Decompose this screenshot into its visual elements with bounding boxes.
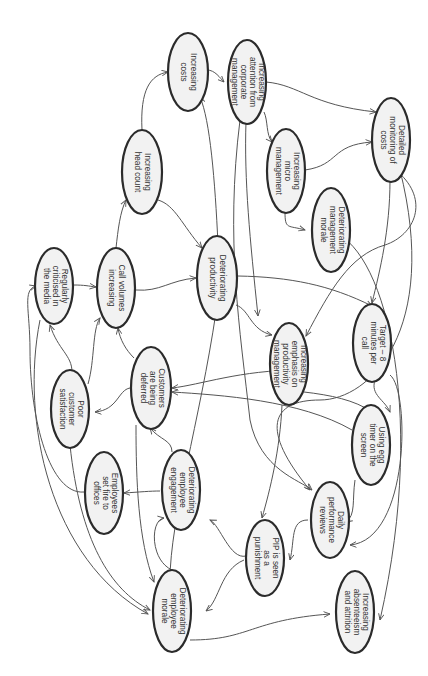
node-call-volumes-increasing: Call volumes increasing [97,248,135,328]
svg-text:minutes per: minutes per [369,322,378,365]
svg-text:employee: employee [178,472,187,508]
svg-text:Using egg: Using egg [377,427,386,464]
node-employees-set-fire: Employees set fire to offices [85,452,123,534]
svg-text:costs: costs [179,62,188,81]
edge-corpattention-monitoring [266,82,376,112]
edge-engagement-fire [124,491,160,493]
svg-text:costs: costs [379,130,388,149]
edge-headcount-productivity [158,200,202,248]
node-deteriorating-productivity: Deteriorating productivity [197,236,237,320]
node-egg-timer: Using egg timer on the screen [352,405,390,485]
node-absenteeism-attrition: Increasing absenteeism and attrition [336,571,374,653]
svg-text:offices: offices [92,481,101,505]
node-increasing-head-count: Increasing head count [122,130,162,214]
edge-deferred-morale [136,425,154,582]
svg-text:head count: head count [133,152,142,193]
svg-text:management: management [230,58,239,107]
node-poor-customer-satisfaction: Poor customer satisfaction [51,370,89,448]
svg-text:engagement: engagement [169,467,178,513]
svg-text:customer: customer [67,392,76,426]
edge-headcount-costs [142,72,168,130]
svg-text:screen: screen [359,433,368,458]
edge-morale-absenteeism [190,614,330,640]
svg-text:Poor: Poor [76,400,85,418]
edge-deferred-callvolumes [118,328,134,358]
edge-corpattention-micromgmt [264,112,272,142]
causal-loop-diagram: Increasing costs Increasing head count I… [0,0,428,676]
svg-text:corporate: corporate [239,65,248,100]
svg-text:Customers: Customers [157,368,166,408]
edge-morale-engagement [154,518,172,570]
edge-productivity-morale [170,312,216,580]
node-target-8-minutes: Target – 8 minutes per call [353,304,391,382]
edge-poorsat-media [50,325,72,372]
svg-text:Call volumes: Call volumes [117,265,126,312]
node-detailed-monitoring-costs: Detailed monitoring of costs [372,98,410,182]
svg-text:management: management [274,147,283,196]
svg-text:Deteriorating: Deteriorating [337,207,346,254]
svg-text:employee: employee [169,593,178,629]
svg-text:Regularly: Regularly [60,269,69,304]
edge-pip-morale [206,560,244,611]
svg-text:Employees: Employees [110,473,119,514]
svg-text:punishment: punishment [253,537,262,580]
svg-text:Detailed: Detailed [397,125,406,155]
svg-text:micro: micro [283,161,292,181]
svg-text:productivity: productivity [208,257,217,299]
edge-media-callvolumes [73,285,96,287]
svg-text:reviews: reviews [318,506,327,534]
svg-text:Target – 8: Target – 8 [378,325,387,362]
node-attention-corporate-management: Increasing attention from corporate mana… [228,40,266,124]
edge-deferred-poorsat [95,388,130,412]
svg-text:are being: are being [148,371,157,406]
svg-text:Daily: Daily [336,511,345,530]
svg-text:attention from: attention from [248,57,257,107]
svg-text:timer on the: timer on the [368,423,377,467]
edge-productivity-costs [200,97,218,244]
edge-micromgmt-mgmtmorale [285,212,305,230]
svg-text:Increasing: Increasing [189,53,198,91]
svg-text:Increasing: Increasing [257,63,266,101]
svg-text:morale: morale [319,217,328,242]
node-increasing-micro-management: Increasing micro management [267,129,305,213]
edge-callvolumes-productivity [136,278,196,290]
edge-pip-engagement [210,520,246,556]
svg-text:Deteriorating: Deteriorating [218,255,227,302]
edge-productivity-emphasis [236,305,272,335]
node-daily-performance-reviews: Daily performance reviews [311,482,349,558]
svg-text:Increasing: Increasing [292,152,301,190]
svg-text:set fire to: set fire to [101,476,110,510]
node-increasing-costs: Increasing costs [168,33,208,111]
node-employee-morale: Deteriorating employee morale [153,570,191,652]
edge-costs-corpattention [207,70,224,82]
svg-text:Deteriorating: Deteriorating [178,588,187,635]
edge-productivity-target [238,276,372,306]
node-pip-punishment: PIP is seen as a punishment [246,520,284,596]
svg-text:emphasis on: emphasis on [290,341,299,388]
nodes: Increasing costs Increasing head count I… [35,33,410,653]
svg-text:as a: as a [262,550,271,566]
svg-text:Increasing: Increasing [143,153,152,191]
svg-text:Increasing: Increasing [361,593,370,631]
svg-text:morale: morale [160,598,169,623]
node-management-morale: Deteriorating management morale [312,188,350,272]
svg-text:call: call [360,337,369,349]
node-criticised-in-media: Regularly criticised in the media [35,248,73,324]
svg-text:absenteeism: absenteeism [352,589,361,636]
edge-micromgmt-monitoring [305,142,372,170]
svg-text:management: management [272,340,281,389]
svg-text:the media: the media [42,268,51,304]
node-emphasis-productivity-management: Increasing emphasis on productivity mana… [270,323,308,405]
svg-text:PIP is seen: PIP is seen [271,537,280,579]
svg-text:criticised in: criticised in [51,266,60,307]
node-employee-engagement: Deteriorating employee engagement [162,450,200,530]
svg-text:and attrition: and attrition [343,591,352,634]
edge-emphasis-pip [262,405,282,518]
svg-text:performance: performance [327,497,336,543]
svg-text:increasing: increasing [107,269,116,307]
svg-text:Increasing: Increasing [299,345,308,383]
edge-dailyreviews-pip [290,520,308,560]
svg-text:productivity: productivity [281,343,290,385]
node-customers-being-deferred: Customers are being deferred [131,347,171,429]
edge-callvolumes-headcount [116,200,126,248]
